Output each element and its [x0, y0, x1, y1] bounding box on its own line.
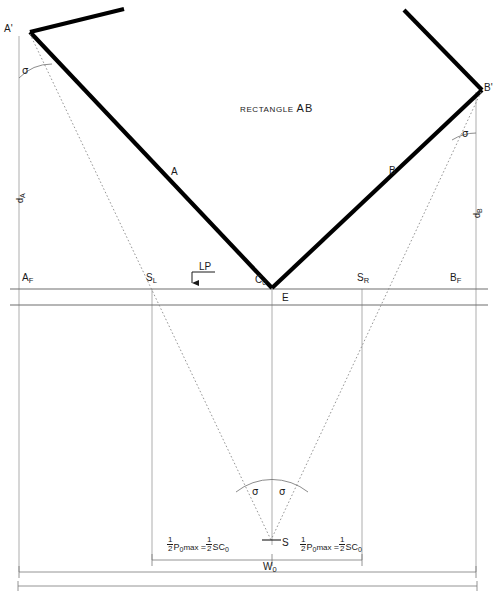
segment-a	[30, 32, 272, 288]
frame-border	[18, 581, 477, 591]
label-sigma-a-prime: σ	[22, 65, 28, 76]
label-c0: C0	[255, 274, 266, 287]
label-sigma-station-right: σ	[279, 486, 285, 497]
dimension-w0	[19, 566, 476, 578]
segment-b	[272, 90, 482, 288]
sight-line-left	[30, 34, 271, 540]
label-d-a: dA	[15, 193, 26, 203]
diagram-vector-layer	[0, 0, 495, 599]
segment-b-prime-top	[404, 10, 482, 90]
label-station-s: S	[282, 537, 289, 548]
sight-line-right	[271, 92, 481, 540]
label-w0: W0	[263, 561, 277, 574]
label-b-prime: B'	[484, 82, 493, 93]
label-side-b: B	[389, 165, 396, 176]
focal-plane-line	[10, 289, 488, 305]
formula-half-p0-right: 12P0max =12SC0	[300, 536, 362, 553]
label-a-prime: A'	[4, 23, 13, 34]
sigma-arcs	[19, 64, 476, 492]
label-lp: LP	[199, 261, 211, 272]
rectangle-ab-outline	[30, 9, 482, 288]
label-e: E	[282, 292, 289, 303]
label-side-a: A	[171, 166, 178, 177]
dimension-half-p0	[152, 554, 362, 566]
label-d-b: dB	[472, 208, 483, 218]
label-b-f: BF	[450, 272, 461, 285]
lp-arrow-group	[192, 272, 215, 283]
segment-a-prime-top	[30, 9, 124, 32]
label-sigma-station-left: σ	[252, 486, 258, 497]
diagram-canvas: A' B' RECTANGLE AB A B dA dB σ σ σ σ AF …	[0, 0, 495, 599]
label-s-l: SL	[146, 272, 157, 285]
label-a-f: AF	[22, 272, 33, 285]
label-sigma-b-prime: σ	[462, 128, 468, 139]
formula-half-p0-left: 12P0max =12SC0	[167, 536, 229, 553]
figure-title: RECTANGLE AB	[240, 102, 313, 114]
label-s-r: SR	[357, 272, 369, 285]
